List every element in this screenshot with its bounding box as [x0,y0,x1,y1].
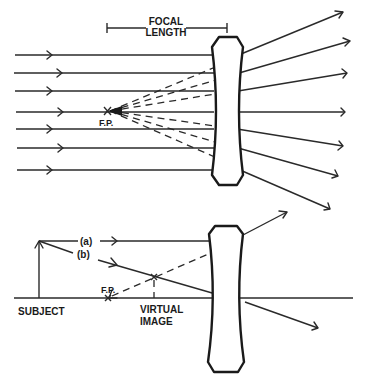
virtual-image-marker [151,274,157,298]
virtual-ray-from-focal-point [112,248,222,296]
focal-length-dimension: FOCAL LENGTH [107,16,227,38]
diverging-lens-diagram: FOCAL LENGTH [0,0,368,385]
bottom-focal-point-label: F.P. [101,285,115,295]
focal-length-label-line1: FOCAL [149,16,183,27]
bottom-concave-lens [208,226,244,372]
top-concave-lens [212,37,243,185]
top-diagram: FOCAL LENGTH [14,11,350,210]
subject-arrow [35,241,43,298]
virtual-image-label-line2: IMAGE [140,316,173,327]
bottom-diagram: SUBJECT (a) (b) VIRTUAL I [14,211,353,372]
virtual-image-label-line1: VIRTUAL [140,304,183,315]
ray-a: (a) [39,211,287,247]
ray-a-label: (a) [80,236,92,247]
ray-b: (b) [39,241,318,330]
outgoing-diverging-rays [237,11,350,210]
top-focal-point-label: F.P. [99,118,113,128]
ray-b-label: (b) [77,249,90,260]
focal-length-label-line2: LENGTH [145,27,186,38]
subject-label: SUBJECT [18,306,65,317]
